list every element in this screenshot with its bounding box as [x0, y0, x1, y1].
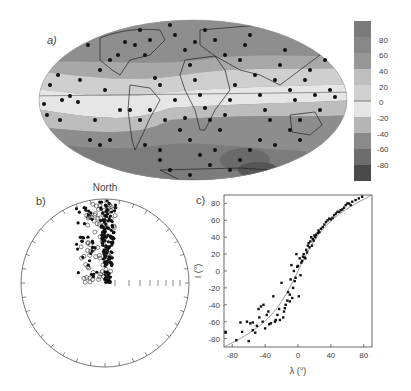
- colorbar: 80 60 40 20 0 -20 -40 -60 -80: [354, 21, 389, 181]
- north-label: North: [93, 182, 117, 193]
- svg-text:0: 0: [216, 267, 221, 276]
- colorbar-tick: 80: [379, 36, 388, 45]
- figure: a): [0, 0, 411, 391]
- panel-label-a: a): [47, 34, 57, 46]
- svg-text:80: 80: [359, 351, 368, 360]
- colorbar-tick: -40: [377, 130, 389, 139]
- svg-text:-80: -80: [208, 335, 220, 344]
- panel-label-b: b): [36, 195, 46, 207]
- svg-text:60: 60: [211, 216, 220, 225]
- panel-b-stereonet: b) North: [21, 182, 189, 367]
- colorbar-tick: -20: [377, 114, 389, 123]
- colorbar-tick: -80: [377, 161, 389, 170]
- filled-circles: [75, 199, 118, 284]
- svg-text:20: 20: [211, 250, 220, 259]
- svg-text:-40: -40: [208, 301, 220, 310]
- colorbar-tick: -60: [377, 145, 389, 154]
- svg-text:-80: -80: [226, 351, 238, 360]
- svg-text:40: 40: [326, 351, 335, 360]
- inclination-scale: [115, 280, 180, 286]
- colorbar-tick: 40: [379, 67, 388, 76]
- colorbar-tick: 0: [379, 98, 384, 107]
- panel-label-c: c): [196, 194, 205, 206]
- svg-text:-60: -60: [208, 318, 220, 327]
- colorbar-tick: 60: [379, 51, 388, 60]
- svg-text:0: 0: [296, 351, 301, 360]
- x-axis-label: λ (°): [290, 366, 307, 376]
- colorbar-tick: 20: [379, 83, 388, 92]
- svg-text:-20: -20: [208, 284, 220, 293]
- svg-text:80: 80: [211, 199, 220, 208]
- y-axis-label: I (°): [193, 264, 203, 279]
- panel-a-map: a): [30, 15, 360, 185]
- svg-text:40: 40: [211, 233, 220, 242]
- svg-text:-40: -40: [259, 351, 271, 360]
